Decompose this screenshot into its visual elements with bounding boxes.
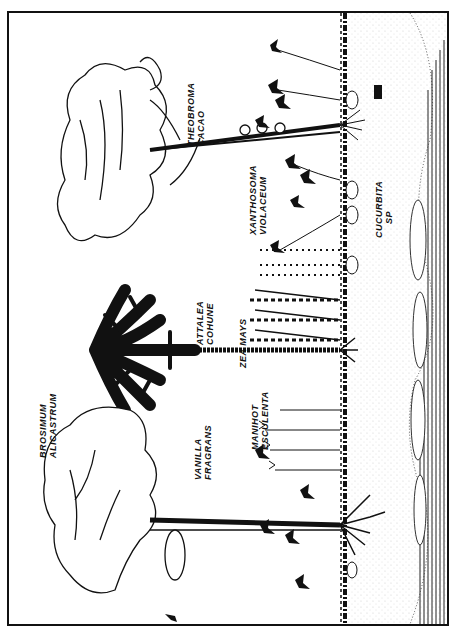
theobroma-cacao-tree — [58, 58, 366, 241]
soil-strata — [345, 13, 447, 624]
label-cucurbita-sp: CUCURBITA SP — [374, 181, 394, 238]
label-manihot-esculenta: MANIHOT ESCULENTA — [250, 391, 270, 450]
zea-mays-plants — [250, 250, 340, 340]
label-attalea-cohune: ATTALEA COHUNE — [195, 301, 215, 345]
label-xanthosoma-violaceum: XANTHOSOMA VIOLACEUM — [248, 165, 268, 235]
label-theobroma-cacao: THEOBROMA CACAO — [186, 83, 206, 147]
manihot-plants — [259, 410, 340, 470]
label-vanilla-fragrans: VANILLA FRAGRANS — [193, 425, 213, 480]
forest-garden-diagram — [0, 0, 454, 627]
soil-sample-icon — [374, 85, 382, 99]
attalea-cohune-palm — [95, 290, 358, 410]
understory-arrow-leaves — [255, 444, 315, 589]
ground-object-icon — [165, 614, 177, 622]
label-brosimum-alicastrum: BROSIMUM ALICASTRUM — [38, 394, 58, 459]
label-zea-mays: ZEA MAYS — [238, 318, 248, 368]
brosimum-alicastrum-tree — [44, 407, 385, 593]
